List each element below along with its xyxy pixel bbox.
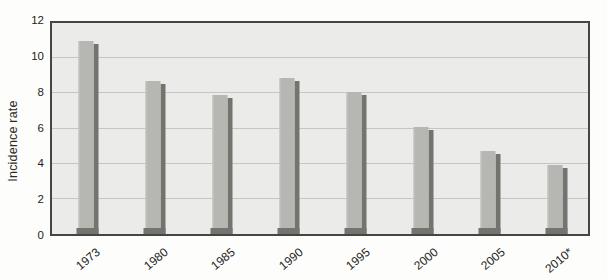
- bar-1980: [145, 81, 160, 234]
- bar-fill: [480, 151, 495, 234]
- bar-base-shadow: [545, 228, 567, 234]
- gridline: [52, 128, 588, 129]
- x-tick-label: 2005: [478, 245, 507, 273]
- bar-fill: [547, 165, 562, 234]
- incidence-rate-bar-chart: Incidence rate 024681012 197319801985199…: [0, 0, 607, 279]
- gridline: [52, 92, 588, 93]
- x-tick-label: 1990: [276, 245, 305, 273]
- bar-1985: [212, 95, 227, 234]
- bar-base-shadow: [76, 228, 98, 234]
- y-tick-label: 6: [0, 122, 44, 135]
- bar-1990: [279, 78, 294, 234]
- y-tick-label: 10: [0, 50, 44, 63]
- bar-fill: [413, 127, 428, 234]
- y-tick-label: 0: [0, 229, 44, 242]
- bar-1973: [78, 41, 93, 234]
- bar-shadow: [562, 168, 567, 234]
- bar-base-shadow: [344, 228, 366, 234]
- bar-fill: [145, 81, 160, 234]
- bar-base-shadow: [277, 228, 299, 234]
- y-tick-label: 12: [0, 14, 44, 27]
- bar-shadow: [227, 98, 232, 234]
- bar-base-shadow: [143, 228, 165, 234]
- bar-fill: [212, 95, 227, 234]
- gridline: [52, 198, 588, 199]
- bar-base-shadow: [411, 228, 433, 234]
- bar-shadow: [160, 84, 165, 234]
- bar-shadow: [93, 44, 98, 234]
- bar-fill: [279, 78, 294, 234]
- bar-fill: [346, 92, 361, 234]
- x-tick-label: 1973: [73, 245, 102, 273]
- x-tick-label: 2000: [411, 245, 440, 273]
- bar-shadow: [294, 81, 299, 234]
- x-tick-label: 1995: [343, 245, 372, 273]
- plot-area: [50, 21, 590, 236]
- bar-shadow: [495, 154, 500, 234]
- x-axis-tick-labels: 19731980198519901995200020052010*: [50, 238, 590, 279]
- bar-fill: [78, 41, 93, 234]
- bar-1995: [346, 92, 361, 234]
- bar-2000: [413, 127, 428, 234]
- bar-base-shadow: [210, 228, 232, 234]
- bar-2005: [480, 151, 495, 234]
- y-tick-label: 4: [0, 157, 44, 170]
- bar-shadow: [361, 95, 366, 234]
- bar-2010: [547, 165, 562, 234]
- y-tick-label: 2: [0, 193, 44, 206]
- x-tick-label: 1980: [141, 245, 170, 273]
- x-tick-label: 2010*: [542, 245, 575, 276]
- bar-shadow: [428, 130, 433, 234]
- y-axis-tick-labels: 024681012: [0, 21, 44, 236]
- bar-base-shadow: [478, 228, 500, 234]
- gridline: [52, 163, 588, 164]
- gridline: [52, 57, 588, 58]
- y-tick-label: 8: [0, 86, 44, 99]
- x-tick-label: 1985: [208, 245, 237, 273]
